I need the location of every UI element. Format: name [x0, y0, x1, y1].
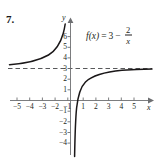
y-tick-label-2: 2 — [58, 74, 67, 83]
x-tick-label-1: 1 — [79, 102, 87, 111]
y-tick-label-neg4: −4 — [55, 138, 67, 147]
y-tick-label-4: 4 — [58, 53, 67, 62]
formula-minus-sign: − — [115, 31, 120, 41]
curve-left-branch — [10, 24, 66, 65]
formula-equals-sign: = — [101, 31, 106, 41]
y-tick-label-5: 5 — [58, 42, 67, 51]
y-axis-label: y — [62, 13, 66, 22]
formula-constant: 3 — [109, 31, 114, 41]
x-tick-label-5: 5 — [130, 102, 138, 111]
y-tick-label-neg2: −2 — [55, 117, 67, 126]
figure-page: 7. — [0, 0, 158, 162]
graph-figure — [0, 0, 158, 162]
formula-variable: (x) — [89, 31, 100, 41]
y-axis-arrowhead — [68, 18, 74, 24]
x-tick-label-2: 2 — [92, 102, 100, 111]
y-tick-label-3: 3 — [58, 64, 67, 73]
formula-fraction: 2 x — [125, 26, 132, 45]
formula-fraction-numerator: 2 — [126, 26, 130, 35]
curve-right-branch — [75, 69, 152, 157]
y-tick-label-6: 6 — [58, 32, 67, 41]
x-tick-label-4: 4 — [117, 102, 125, 111]
x-axis-label: x — [147, 103, 151, 112]
y-tick-label-1: 1 — [58, 85, 67, 94]
function-formula-annotation: f (x) = 3 − 2 x — [86, 26, 132, 45]
x-tick-label-3: 3 — [105, 102, 113, 111]
y-tick-label-neg3: −3 — [55, 128, 67, 137]
y-tick-label-neg1: −1 — [55, 106, 67, 115]
formula-fraction-denominator: x — [126, 36, 130, 45]
